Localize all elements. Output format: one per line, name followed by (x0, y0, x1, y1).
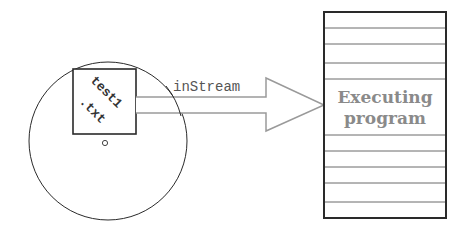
disk: test1 .txt (29, 62, 187, 220)
file-box: test1 .txt (73, 69, 136, 134)
program-box: Executing program (324, 12, 446, 218)
stream-label: inStream (173, 79, 240, 95)
program-label-line1: Executing (337, 87, 432, 107)
program-label-line2: program (344, 108, 426, 128)
spindle-hole (102, 140, 107, 145)
stream-diagram: test1 .txt inStream Executing program (0, 0, 467, 229)
